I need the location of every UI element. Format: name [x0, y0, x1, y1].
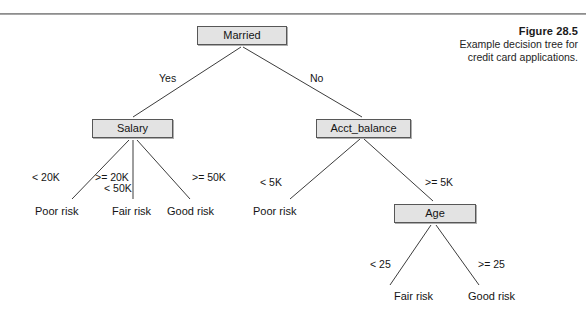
tree-node-salary[interactable]: Salary [92, 119, 173, 138]
edge-label-married-acct_balance-1: No [310, 72, 323, 84]
tree-node-married[interactable]: Married [197, 26, 287, 45]
tree-edge-married-to-salary [133, 47, 241, 117]
edge-label-salary-leaf_good_1-5: >= 50K [192, 171, 226, 183]
tree-edge-salary-to-good [137, 140, 190, 199]
tree-node-acct_balance[interactable]: Acct_balance [316, 119, 411, 138]
tree-leaf-leaf_poor_2: Poor risk [253, 205, 296, 218]
tree-leaf-leaf_poor_1: Poor risk [35, 205, 78, 218]
tree-edge-age-to-fair [390, 225, 431, 285]
tree-leaf-leaf_fair_1: Fair risk [112, 205, 151, 218]
edge-label-salary-leaf_fair_1-4: < 50K [104, 182, 132, 194]
tree-leaf-leaf_fair_2: Fair risk [394, 290, 433, 303]
tree-edge-acct-to-poor [290, 139, 360, 199]
tree-leaf-leaf_good_2: Good risk [468, 290, 515, 303]
edge-label-acct_balance-leaf_poor_2-6: < 5K [260, 176, 282, 188]
tree-edge-acct-to-age [364, 139, 433, 201]
edge-label-salary-leaf_poor_1-2: < 20K [32, 171, 60, 183]
edge-label-age-leaf_good_2-9: >= 25 [478, 258, 505, 270]
figure-page: Figure 28.5 Example decision tree for cr… [0, 0, 586, 313]
edge-label-age-leaf_fair_2-8: < 25 [370, 258, 391, 270]
tree-leaf-leaf_good_1: Good risk [167, 205, 214, 218]
tree-node-age[interactable]: Age [394, 204, 476, 223]
tree-edge-age-to-good [436, 225, 479, 285]
tree-edge-married-to-acct [243, 47, 362, 117]
decision-tree: MarriedSalaryAcct_balanceAge YesNo< 20K>… [0, 0, 586, 313]
edge-label-acct_balance-age-7: >= 5K [425, 176, 453, 188]
edge-label-married-salary-0: Yes [159, 72, 176, 84]
